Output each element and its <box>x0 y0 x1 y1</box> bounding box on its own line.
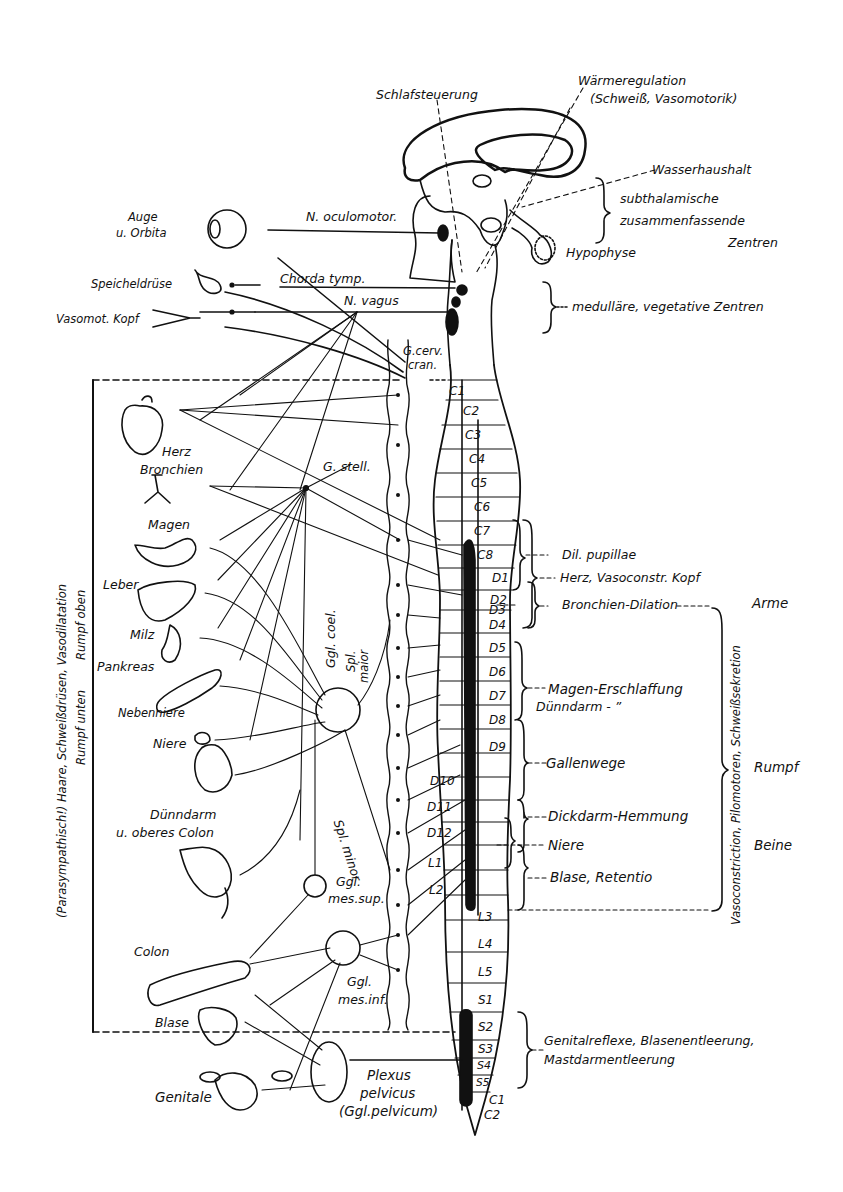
segment-d4: D4 <box>489 618 506 632</box>
label-plexus-3: (Ggl.pelvicum) <box>339 1104 438 1120</box>
label-plexus-2: pelvicus <box>360 1086 415 1102</box>
segment-s4: S4 <box>477 1059 491 1072</box>
label-legs: Beine <box>754 838 792 854</box>
label-heart: Herz <box>162 445 191 459</box>
kidney-shape <box>195 745 232 792</box>
label-ggl-mes-sup-2: mes.sup. <box>328 892 385 906</box>
segment-l5: L5 <box>478 965 492 979</box>
ganglion-mes-inf <box>326 931 360 965</box>
heart-shape <box>122 405 163 454</box>
label-sleep-control: Schlafsteuerung <box>376 88 478 102</box>
genital-shape <box>215 1073 257 1110</box>
label-trunk: Rumpf <box>754 760 798 776</box>
ganglion-mes-sup <box>304 875 326 897</box>
corpus-callosum <box>404 109 586 180</box>
segment-c3: C3 <box>465 428 481 442</box>
brace-medullary <box>543 282 556 333</box>
plexus-pelvicus <box>311 1042 347 1102</box>
label-bladder-retention: Blase, Retentio <box>550 870 652 886</box>
label-bronchi: Bronchien <box>140 463 203 477</box>
brace-subthalamic <box>596 178 610 243</box>
label-colon-inhibition: Dickdarm-Hemmung <box>548 809 688 825</box>
label-heart-vasoconstr: Herz, Vasoconstr. Kopf <box>560 571 700 585</box>
label-small-intestine: Dünndarm <box>150 808 216 822</box>
stomach-shape <box>135 539 196 567</box>
segment-l1: L1 <box>428 856 442 870</box>
label-plexus-1: Plexus <box>367 1068 411 1084</box>
label-salivary-gland: Speicheldrüse <box>91 278 172 291</box>
spleen-shape <box>162 625 181 662</box>
eye <box>208 210 246 248</box>
label-stomach: Magen <box>148 518 190 532</box>
label-upper-colon: u. oberes Colon <box>116 826 214 840</box>
label-stomach-relax: Magen-Erschlaffung <box>548 682 683 698</box>
label-heat-regulation-sub: (Schweiß, Vasomotorik) <box>590 92 738 106</box>
segment-c5: C5 <box>471 476 487 490</box>
label-subthalamic-2: zusammenfassende <box>620 214 745 228</box>
segment-c7: C7 <box>474 524 490 538</box>
bladder-shape <box>199 1008 237 1045</box>
label-small-intestine-relax: Dünndarm - ” <box>536 700 621 714</box>
label-hypophysis: Hypophyse <box>566 246 636 260</box>
segment-c8: C8 <box>477 548 493 562</box>
label-parasympathetic-note: (Parasympathisch!) Haare, Schweißdrüsen,… <box>56 584 69 918</box>
segment-d9: D9 <box>489 740 506 754</box>
label-kidney-function: Niere <box>548 838 584 854</box>
label-liver: Leber <box>103 578 138 592</box>
ganglion-coeliac <box>316 688 360 732</box>
segment-c4: C4 <box>469 452 485 466</box>
liver-shape <box>138 581 195 621</box>
label-ggl-mes-sup-1: Ggl. <box>336 875 361 889</box>
segment-d8: D8 <box>489 713 506 727</box>
label-subthalamic-3: Zentren <box>728 236 778 250</box>
hypophysis <box>510 210 551 264</box>
label-spl-maior-2: maior <box>358 650 371 683</box>
segment-s1: S1 <box>478 993 493 1007</box>
segment-c6: C6 <box>474 500 490 514</box>
label-sacral-reflexes-1: Genitalreflexe, Blasenentleerung, <box>544 1034 755 1048</box>
label-g-stellatum: G. stell. <box>323 460 371 474</box>
label-ggl-coeliacum: Ggl. coel. <box>324 609 338 668</box>
label-trunk-upper: Rumpf oben <box>75 590 88 660</box>
label-eye: Auge <box>128 211 158 224</box>
label-n-vagus: N. vagus <box>344 294 399 308</box>
label-colon: Colon <box>134 945 169 959</box>
label-ggl-mes-inf-1: Ggl. <box>347 975 372 989</box>
label-vasomot-head: Vasomot. Kopf <box>56 313 139 326</box>
label-genitals: Genitale <box>155 1090 212 1106</box>
label-ggl-mes-inf-2: mes.inf. <box>338 993 388 1007</box>
segment-d3: D3 <box>489 603 506 617</box>
small-intestine-shape <box>180 847 231 897</box>
segment-d5: D5 <box>489 641 506 655</box>
label-adrenal: Nebenniere <box>118 707 185 720</box>
segment-d7: D7 <box>489 689 506 703</box>
label-subthalamic-1: subthalamische <box>620 192 719 206</box>
segment-d6: D6 <box>489 665 506 679</box>
label-sacral-reflexes-2: Mastdarmentleerung <box>544 1053 675 1067</box>
segment-s3: S3 <box>478 1042 493 1056</box>
label-bronchial-dilation: Bronchien-Dilation <box>562 598 678 612</box>
segment-s5: S5 <box>476 1076 489 1088</box>
sympathetic-chain <box>387 340 390 1030</box>
label-spleen: Milz <box>130 628 154 642</box>
label-bladder: Blase <box>155 1016 189 1030</box>
segment-l4: L4 <box>478 937 492 951</box>
segment-l2: L2 <box>429 883 443 897</box>
label-arms: Arme <box>752 596 788 612</box>
label-heat-regulation: Wärmeregulation <box>578 74 686 88</box>
label-g-cerv-cran: cran. <box>408 359 437 372</box>
label-vasoconstriction-note: Vasoconstriction, Pilomotoren, Schweißse… <box>730 645 743 925</box>
label-kidney: Niere <box>153 737 186 751</box>
label-chorda-tympani: Chorda tymp. <box>280 272 365 286</box>
segment-d1: D1 <box>492 571 509 585</box>
segment-l3: L3 <box>478 910 492 924</box>
label-eye-orbit: u. Orbita <box>116 227 166 240</box>
segment-s2: S2 <box>478 1020 493 1034</box>
segment-c2: C2 <box>463 404 479 418</box>
segment-d11: D11 <box>427 800 452 814</box>
colon-shape <box>148 961 250 1005</box>
bronchi-shape <box>145 475 170 503</box>
label-medullary-centers: medulläre, vegetative Zentren <box>572 300 764 314</box>
label-pancreas: Pankreas <box>97 660 154 674</box>
segment-d12: D12 <box>427 826 452 840</box>
